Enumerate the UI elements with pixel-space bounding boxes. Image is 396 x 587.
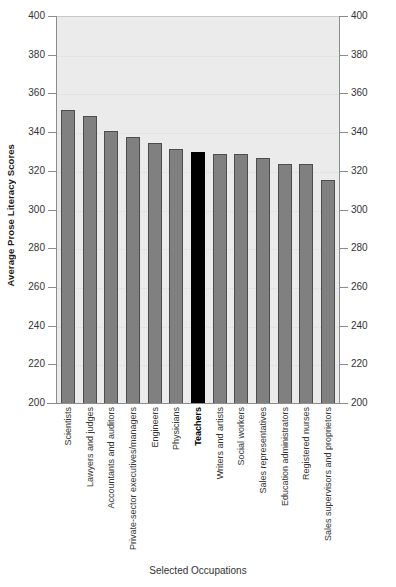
category-label-slot: Private-sector executives/managers (122, 407, 144, 557)
bar-slot (79, 17, 101, 404)
bars-layer (57, 17, 339, 404)
bar-slot (231, 17, 253, 404)
plot-area (57, 16, 339, 404)
category-label: Writers and artists (215, 407, 225, 479)
left-axis-tick-label: 200 (28, 398, 45, 408)
category-label-slot: Sales representatives (252, 407, 274, 557)
category-label: Sales representatives (258, 407, 268, 494)
category-label-slot: Social workers (231, 407, 253, 557)
bar (61, 110, 75, 404)
right-axis-tick (340, 132, 348, 133)
left-axis-tick (48, 55, 56, 56)
bar (256, 158, 270, 404)
left-axis-tick (48, 16, 56, 17)
category-label: Scientists (63, 407, 73, 446)
bar (278, 164, 292, 404)
category-label: Lawyers and judges (85, 407, 95, 487)
right-axis-tick (340, 16, 348, 17)
bar (234, 154, 248, 404)
right-axis-tick (340, 171, 348, 172)
category-label-slot: Education administrators (274, 407, 296, 557)
right-axis-tick-label: 380 (351, 50, 368, 60)
right-axis-tick-label: 320 (351, 166, 368, 176)
category-label-slot: Registered nurses (296, 407, 318, 557)
category-label: Physicians (171, 407, 181, 450)
bar-slot (296, 17, 318, 404)
category-label-slot: Accountants and auditors (100, 407, 122, 557)
left-axis-tick (48, 171, 56, 172)
left-axis-tick-label: 220 (28, 359, 45, 369)
right-axis-tick-label: 360 (351, 88, 368, 98)
right-axis-tick-label: 300 (351, 205, 368, 215)
category-label-slot: Teachers (187, 407, 209, 557)
x-axis-title: Selected Occupations (0, 565, 396, 576)
bar (169, 149, 183, 404)
bar (148, 143, 162, 404)
bar-slot (317, 17, 339, 404)
left-axis-tick-label: 320 (28, 166, 45, 176)
left-axis-line (56, 16, 57, 404)
category-label: Sales supervisors and proprietors (323, 407, 333, 541)
category-label: Private-sector executives/managers (128, 407, 138, 550)
left-axis-tick (48, 287, 56, 288)
category-label: Accountants and auditors (106, 407, 116, 509)
category-label-slot: Lawyers and judges (79, 407, 101, 557)
bar-slot (187, 17, 209, 404)
category-label-slot: Physicians (165, 407, 187, 557)
category-label-slot: Sales supervisors and proprietors (317, 407, 339, 557)
right-axis-tick (340, 248, 348, 249)
y-axis-title-text: Average Prose Literacy Scores (5, 144, 16, 287)
x-axis-baseline (47, 403, 348, 404)
left-axis-tick (48, 132, 56, 133)
category-label-slot: Scientists (57, 407, 79, 557)
bar-slot (252, 17, 274, 404)
right-axis-tick (340, 364, 348, 365)
category-labels: ScientistsLawyers and judgesAccountants … (57, 407, 339, 557)
left-axis-tick-label: 360 (28, 88, 45, 98)
right-axis-tick (340, 55, 348, 56)
left-axis-tick-label: 400 (28, 11, 45, 21)
category-label: Teachers (193, 407, 203, 446)
left-axis-tick-label: 380 (28, 50, 45, 60)
bar (83, 116, 97, 404)
left-axis-tick (48, 364, 56, 365)
bar-slot (100, 17, 122, 404)
category-label: Registered nurses (301, 407, 311, 480)
left-axis-tick (48, 210, 56, 211)
left-axis-tick-label: 300 (28, 205, 45, 215)
left-axis-tick (48, 248, 56, 249)
right-axis-tick-label: 400 (351, 11, 368, 21)
bar (191, 152, 205, 404)
category-label: Education administrators (280, 407, 290, 506)
category-label: Engineers (150, 407, 160, 448)
right-axis-tick-label: 220 (351, 359, 368, 369)
right-axis-tick (340, 326, 348, 327)
bar-slot (57, 17, 79, 404)
right-axis-tick-label: 240 (351, 321, 368, 331)
bar (126, 137, 140, 404)
bar-slot (122, 17, 144, 404)
right-axis-tick (340, 287, 348, 288)
bar-slot (144, 17, 166, 404)
prose-literacy-bar-chart: Average Prose Literacy Scores 4004003803… (0, 0, 396, 587)
bar (299, 164, 313, 404)
right-axis-tick-label: 200 (351, 398, 368, 408)
right-axis-tick (340, 210, 348, 211)
category-label-slot: Writers and artists (209, 407, 231, 557)
bar (104, 131, 118, 404)
right-axis-tick (340, 93, 348, 94)
right-axis-tick-label: 340 (351, 127, 368, 137)
left-axis-tick-label: 340 (28, 127, 45, 137)
left-axis-tick (48, 93, 56, 94)
right-axis-tick-label: 260 (351, 282, 368, 292)
left-axis-tick (48, 403, 56, 404)
category-label-slot: Engineers (144, 407, 166, 557)
right-axis-tick (340, 403, 348, 404)
left-axis-tick-label: 280 (28, 243, 45, 253)
bar-slot (274, 17, 296, 404)
left-axis-tick-label: 240 (28, 321, 45, 331)
category-label: Social workers (236, 407, 246, 466)
right-axis-tick-label: 280 (351, 243, 368, 253)
bar (213, 154, 227, 404)
left-axis-tick-label: 260 (28, 282, 45, 292)
